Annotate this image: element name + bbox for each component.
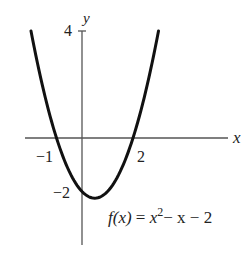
- x-tick-label-2: 2: [137, 148, 145, 165]
- function-lhs: f(x): [108, 208, 132, 227]
- function-label: f(x) = x2− x − 2: [108, 205, 212, 227]
- function-rest: − x − 2: [163, 208, 212, 227]
- function-eq: =: [136, 208, 146, 227]
- function-graph: 4 y x −1 2 −2 f(x) = x2− x − 2: [0, 0, 252, 256]
- y-tick-label-4: 4: [64, 22, 72, 39]
- parabola-curve: [31, 31, 159, 198]
- y-axis-label: y: [81, 10, 90, 26]
- x-axis-label: x: [232, 128, 241, 147]
- y-tick-label-neg2: −2: [53, 184, 70, 201]
- x-tick-label-neg1: −1: [36, 148, 53, 165]
